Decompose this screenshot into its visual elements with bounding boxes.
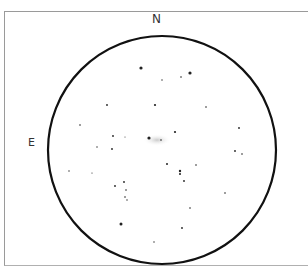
star xyxy=(106,104,108,106)
star xyxy=(189,207,191,209)
star xyxy=(125,137,126,138)
star xyxy=(79,124,81,126)
galaxy-glow xyxy=(143,134,171,146)
star xyxy=(205,106,207,108)
star xyxy=(91,172,92,173)
field-of-view-circle xyxy=(48,36,276,264)
star xyxy=(68,170,69,171)
star xyxy=(147,136,150,139)
star-field xyxy=(68,66,243,242)
star xyxy=(234,150,236,152)
star xyxy=(154,104,156,106)
star xyxy=(224,192,226,194)
star xyxy=(160,139,162,141)
star xyxy=(180,76,182,78)
star xyxy=(139,66,142,69)
star xyxy=(124,196,126,198)
star xyxy=(174,131,176,133)
star xyxy=(183,180,185,182)
star xyxy=(125,189,127,191)
star xyxy=(179,170,181,172)
eyepiece-field xyxy=(0,0,308,275)
star xyxy=(123,181,125,183)
star xyxy=(161,79,162,80)
star xyxy=(114,185,116,187)
star xyxy=(96,146,97,147)
star xyxy=(112,135,114,137)
star xyxy=(179,173,181,175)
star xyxy=(181,227,183,229)
star xyxy=(153,241,154,242)
star xyxy=(126,199,127,200)
star xyxy=(120,223,123,226)
star xyxy=(111,148,113,150)
star xyxy=(238,127,240,129)
star xyxy=(241,153,243,155)
star xyxy=(195,164,197,166)
star xyxy=(166,163,168,165)
star xyxy=(188,71,191,74)
